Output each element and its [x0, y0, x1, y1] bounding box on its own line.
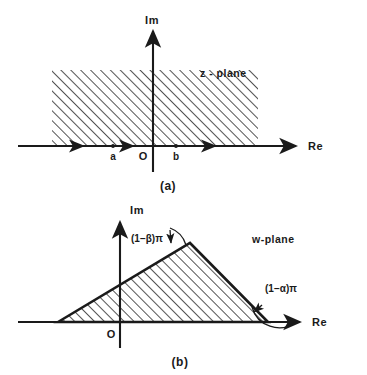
- panel-a-caption: (a): [160, 179, 176, 193]
- apex-angle-leader: [170, 230, 171, 243]
- z-plane-re-axis-label: Re: [308, 140, 323, 152]
- z-plane-im-axis-label: Im: [145, 14, 159, 26]
- point-marker-b: [174, 144, 178, 148]
- z-plane-point-label-b: b: [173, 151, 179, 162]
- w-plane-im-axis-label: Im: [130, 204, 144, 216]
- panel-b-caption: (b): [172, 355, 189, 369]
- apex-angle-arc: [170, 228, 186, 245]
- figure-container: Im Re z - plane O a b (a): [0, 0, 367, 375]
- z-plane-point-label-a: a: [110, 151, 116, 162]
- w-plane-label: w-plane: [251, 233, 295, 245]
- panel-b-w-plane: Im Re w-plane O (1−β)π (1−α)π (b): [18, 204, 327, 369]
- apex-angle-label: (1−β)π: [131, 233, 163, 244]
- z-plane-label: z - plane: [200, 67, 247, 79]
- z-plane-origin-label: O: [139, 150, 148, 162]
- w-plane-re-axis-label: Re: [312, 316, 327, 328]
- w-plane-origin-label: O: [107, 328, 116, 340]
- complex-plane-figure: Im Re z - plane O a b (a): [0, 0, 367, 375]
- point-marker-a: [111, 144, 115, 148]
- z-plane-shaded-region: [52, 70, 258, 146]
- panel-a-z-plane: Im Re z - plane O a b (a): [18, 14, 323, 193]
- right-vertex-angle-label: (1−α)π: [265, 283, 297, 294]
- w-plane-shaded-triangle: [50, 235, 280, 330]
